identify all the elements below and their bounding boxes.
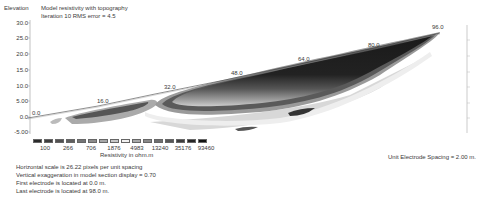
legend-color-block xyxy=(121,139,130,143)
legend-color-block xyxy=(55,139,64,143)
electrode-label: 80.0 xyxy=(368,42,380,49)
legend-color-block xyxy=(132,139,141,143)
color-legend xyxy=(33,139,207,143)
legend-color-block xyxy=(198,139,207,143)
legend-value: 13240 xyxy=(152,145,169,151)
legend-value: 4983 xyxy=(130,145,143,151)
legend-color-block xyxy=(143,139,152,143)
electrode-label: 64.0 xyxy=(298,56,310,63)
note-horizontal-scale: Horizontal scale is 26.22 pixels per uni… xyxy=(16,164,142,171)
legend-color-block xyxy=(66,139,75,143)
legend-color-block xyxy=(77,139,86,143)
legend-color-block xyxy=(44,139,53,143)
legend-color-block xyxy=(110,139,119,143)
electrode-label: 16.0 xyxy=(97,98,109,105)
electrode-label: 48.0 xyxy=(231,70,243,77)
legend-title: Resistivity in ohm.m xyxy=(100,152,153,159)
legend-value: 266 xyxy=(63,145,73,151)
legend-color-block xyxy=(99,139,108,143)
note-last-electrode: Last electrode is located at 98.0 m. xyxy=(16,188,109,195)
legend-value: 100 xyxy=(40,145,50,151)
legend-color-block xyxy=(88,139,97,143)
legend-color-block xyxy=(33,139,42,143)
legend-color-block xyxy=(187,139,196,143)
note-vertical-exaggeration: Vertical exaggeration in model section d… xyxy=(16,172,156,179)
legend-value: 35176 xyxy=(175,145,192,151)
electrode-label: 96.0 xyxy=(432,24,444,31)
note-first-electrode: First electrode is located at 0.0 m. xyxy=(16,180,106,187)
legend-color-block xyxy=(165,139,174,143)
legend-value: 1876 xyxy=(107,145,120,151)
legend-color-block xyxy=(176,139,185,143)
legend-value: 93460 xyxy=(198,145,215,151)
electrode-label: 32.0 xyxy=(164,84,176,91)
legend-value: 706 xyxy=(86,145,96,151)
unit-electrode-spacing: Unit Electrode Spacing = 2.00 m. xyxy=(388,154,476,161)
legend-color-block xyxy=(154,139,163,143)
electrode-label: 0.0 xyxy=(32,110,40,117)
